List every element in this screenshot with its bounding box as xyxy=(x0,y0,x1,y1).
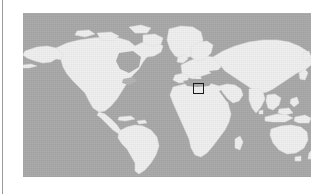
region-of-interest-box xyxy=(193,83,204,94)
land-hispaniola xyxy=(137,120,147,124)
world-locator-figure xyxy=(0,0,326,194)
land-sri-lanka xyxy=(259,110,263,114)
world-map-graphic xyxy=(23,13,311,177)
world-map xyxy=(23,13,311,177)
land-tasmania xyxy=(295,156,301,161)
